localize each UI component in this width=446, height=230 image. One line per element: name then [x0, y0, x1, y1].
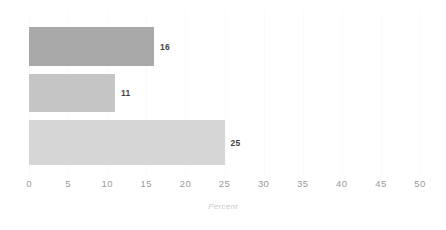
bar-row: 25 — [29, 120, 420, 165]
x-tick-40: 40 — [336, 178, 347, 189]
x-tick-30: 30 — [258, 178, 269, 189]
x-tick-0: 0 — [26, 178, 32, 189]
plot-area: 161125 — [29, 12, 420, 175]
x-tick-15: 15 — [141, 178, 152, 189]
x-axis-title: Percent — [0, 202, 446, 211]
x-tick-10: 10 — [102, 178, 113, 189]
bar-row: 16 — [29, 27, 420, 66]
bar-row: 11 — [29, 74, 420, 112]
bar-value-label-2: 11 — [121, 88, 130, 98]
x-tick-25: 25 — [219, 178, 230, 189]
bar-value-label-1: 16 — [160, 42, 170, 52]
x-axis-tick-labels: 05101520253035404550 — [0, 178, 446, 194]
x-tick-45: 45 — [375, 178, 386, 189]
x-tick-35: 35 — [297, 178, 308, 189]
gridline-50 — [420, 12, 421, 175]
x-tick-5: 5 — [65, 178, 71, 189]
bar-value-label-3: 25 — [231, 138, 241, 148]
x-tick-20: 20 — [180, 178, 191, 189]
bar-1[interactable] — [29, 27, 154, 66]
bar-3[interactable] — [29, 120, 225, 165]
bar-2[interactable] — [29, 74, 115, 112]
x-tick-50: 50 — [414, 178, 425, 189]
bar-chart: 161125 05101520253035404550 Percent — [0, 0, 446, 230]
